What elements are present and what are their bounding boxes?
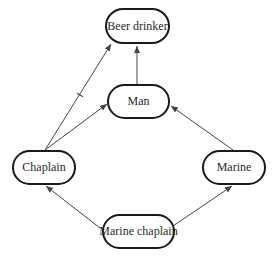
edge-marine_chaplain-to-marine (173, 186, 232, 226)
edge-marine-to-man (171, 106, 233, 150)
node-marine: Marine (202, 150, 266, 185)
node-chaplain: Chaplain (12, 150, 76, 185)
node-man: Man (107, 84, 170, 119)
inheritance-diagram: Beer drinker Man Chaplain Marine Marine … (0, 0, 275, 262)
node-marine-chaplain: Marine chaplain (102, 214, 175, 249)
node-beer-drinker: Beer drinker (105, 8, 170, 44)
edge-chaplain-to-beer_drinker (45, 44, 111, 150)
edge-marine_chaplain-to-chaplain (46, 186, 100, 228)
edge-chaplain-to-man (45, 104, 107, 150)
